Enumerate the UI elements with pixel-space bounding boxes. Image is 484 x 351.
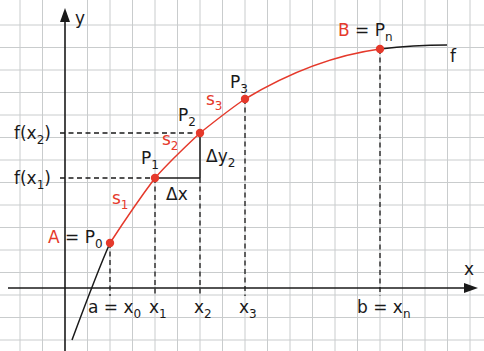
- y-axis-arrow-icon: [60, 8, 70, 22]
- label-P2: P2: [178, 105, 196, 129]
- label-delta-x: Δx: [166, 184, 188, 204]
- x-axis-label: x: [464, 259, 474, 279]
- y-axis-label: y: [75, 8, 85, 28]
- label-s1: s1: [112, 188, 129, 212]
- guide-lines: [60, 49, 380, 296]
- label-B: B = Pn: [338, 20, 393, 44]
- arc-length-diagram: x y A = P0 P1 P2 P3 B = P: [0, 0, 484, 351]
- function-curve: [72, 243, 110, 340]
- point-P2: [196, 129, 204, 137]
- x-axis-arrow-icon: [464, 283, 478, 293]
- point-B: [376, 45, 384, 53]
- point-P1: [151, 174, 159, 182]
- label-s2: s2: [162, 129, 179, 153]
- point-A: [106, 239, 114, 247]
- label-P1: P1: [141, 148, 159, 172]
- label-f: f: [450, 46, 457, 66]
- point-P3: [241, 95, 249, 103]
- label-A: A = P0: [48, 227, 103, 251]
- label-delta-y2: Δy2: [206, 146, 235, 170]
